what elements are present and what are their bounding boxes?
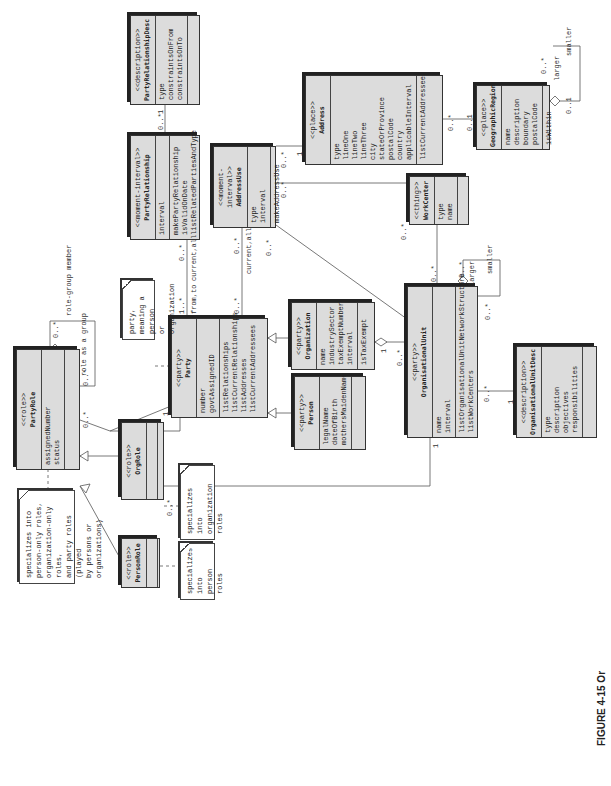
class-name: Party (184, 321, 193, 415)
class-name: OrgRole (134, 425, 143, 497)
note-party-role: specializes intoperson-only roles,organi… (19, 490, 75, 584)
multiplicity: 0..* (178, 244, 186, 261)
attributes: nameinterval (433, 287, 456, 437)
class-name: PartyRole (29, 352, 38, 467)
multiplicity: 0..1 (466, 114, 474, 131)
methods: listOrganisationalUnitNetworkStructureli… (456, 287, 478, 437)
stereotype: <<party>> (295, 305, 304, 367)
role-label: role as a group (80, 313, 88, 376)
attributes: namedescriptionboundarypostalCode (502, 86, 543, 149)
class-work-center: <<thing>>WorkCenter typename (409, 176, 469, 225)
class-name: WorkCenter (422, 179, 431, 222)
multiplicity: 0..* (280, 151, 288, 168)
multiplicity: 0..* (265, 239, 273, 256)
stereotype: <<place>> (309, 78, 318, 162)
methods: isWithin (543, 86, 556, 149)
note-person-role: specializesinto personroles (180, 543, 215, 600)
class-name: OrganisationalUnitDesc (529, 349, 538, 435)
multiplicity: 1..* (178, 297, 186, 314)
class-geographic-region: <<place>>GeographicRegion namedescriptio… (476, 85, 550, 150)
class-name: PersonRole (134, 541, 143, 585)
methods: isTaxExempt (358, 303, 371, 369)
multiplicity: 0..* (233, 237, 241, 254)
attributes: numbergovtAssignedID (197, 319, 220, 417)
multiplicity: 0..1 (565, 97, 573, 114)
class-name: PartyRelationshipDesc (143, 18, 152, 102)
multiplicity: 0..* (447, 114, 455, 131)
role-label: larger (468, 261, 476, 286)
multiplicity: 0..* (400, 223, 408, 240)
methods: listCurrentAddressees (417, 76, 430, 164)
attributes: interval (156, 136, 170, 239)
multiplicity: 0..* (166, 499, 174, 516)
multiplicity: 1 (296, 152, 304, 156)
class-name: Address (318, 78, 327, 162)
role-label: from,to (190, 285, 198, 314)
attributes: nameindustrySectortaxExemptNumberinterva… (317, 303, 358, 369)
role-label: smaller (486, 245, 494, 274)
stereotype: <<moment-interval>> (217, 149, 235, 225)
attributes (147, 539, 158, 587)
stereotype: <<description>> (134, 18, 143, 102)
methods (352, 377, 362, 449)
multiplicity: 0..* (458, 261, 466, 278)
multiplicity: 1 (380, 349, 388, 353)
stereotype: <<description>> (520, 349, 529, 435)
multiplicity: 0..* (280, 181, 288, 198)
attributes: typeinterval (248, 147, 271, 227)
class-party: <<party>>Party numbergovtAssignedID list… (171, 318, 268, 418)
multiplicity: 0..* (396, 349, 404, 366)
class-party-relationship-desc: <<description>>PartyRelationshipDesc typ… (130, 15, 200, 105)
attributes: assignedNumberstatus (42, 350, 65, 469)
stereotype: <<role>> (20, 352, 29, 467)
class-organisational-unit-desc: <<description>>OrganisationalUnitDesc ty… (516, 346, 597, 438)
note-party: party,meaning a personor organization (122, 280, 155, 340)
methods (188, 16, 198, 104)
class-person-role: <<role>>PersonRole (121, 538, 160, 588)
attributes: typedescriptionobjectivesresponsibilitie… (542, 347, 583, 437)
methods (458, 177, 468, 224)
methods (158, 423, 168, 499)
class-organization: <<party>>Organization nameindustrySector… (291, 302, 375, 370)
stereotype: <<party>> (411, 289, 420, 435)
multiplicity: 1 (432, 444, 440, 448)
attributes: typename (435, 177, 458, 224)
multiplicity: 0..* (233, 297, 241, 314)
role-label: role-group member (65, 245, 73, 316)
multiplicity: 0..* (52, 321, 60, 338)
multiplicity: 0..* (82, 369, 90, 386)
stereotype: <<role>> (125, 541, 134, 585)
attributes: typelineOnelineTwolineThreecitystateOrPr… (331, 76, 417, 164)
class-person: <<party>>Person legalNamedateOfBirthmoth… (294, 376, 366, 450)
methods: makePartyRelationshipisValidOnDatelistRe… (170, 136, 201, 239)
role-label: current,all (245, 228, 253, 274)
class-name: Person (307, 379, 316, 447)
methods: listRelationshipslistCurrentRelationship… (220, 319, 260, 417)
class-name: AddressUse (235, 149, 244, 225)
multiplicity: 0..* (484, 303, 492, 320)
stereotype: <<party>> (298, 379, 307, 447)
class-name: PartyRelationship (143, 138, 152, 237)
multiplicity: 1 (507, 400, 515, 404)
figure-caption: FIGURE 4-15 Or (596, 671, 607, 746)
class-org-role: <<role>>OrgRole (121, 422, 164, 500)
stereotype: <<place>> (480, 88, 489, 147)
class-name: Organization (304, 305, 313, 367)
class-address: <<place>>Address typelineOnelineTwolineT… (305, 75, 443, 165)
multiplicity: 1 (162, 412, 170, 416)
class-organisational-unit: <<party>>OrganisationalUnit nameinterval… (407, 286, 478, 438)
multiplicity: 1 (157, 110, 165, 114)
multiplicity: 0..* (430, 265, 438, 282)
class-name: OrganisationalUnit (420, 289, 429, 435)
multiplicity: 0..* (82, 411, 90, 428)
stereotype: <<role>> (125, 425, 134, 497)
class-party-role: <<role>>PartyRole assignedNumberstatus (16, 349, 80, 470)
class-name: GeographicRegion (489, 88, 498, 147)
stereotype: <<moment-interval>> (134, 138, 143, 237)
methods (583, 347, 593, 437)
class-address-use: <<moment-interval>>AddressUse typeinterv… (213, 146, 276, 228)
multiplicity: 0..* (540, 57, 548, 74)
methods (65, 350, 75, 469)
stereotype: <<thing>> (413, 179, 422, 222)
role-label: smaller (565, 27, 573, 56)
